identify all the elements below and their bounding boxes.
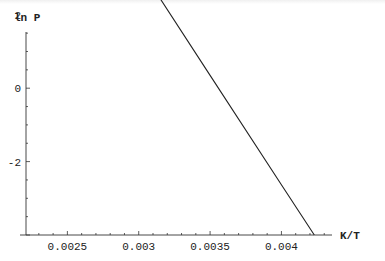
y-axis-title: ln P: [14, 12, 41, 24]
x-axis-title: K/T: [340, 230, 360, 242]
y-axis: -20246: [8, 0, 30, 235]
x-tick-label: 0.004: [265, 241, 298, 253]
x-tick-label: 0.003: [122, 241, 155, 253]
x-tick-label: 0.0025: [48, 241, 88, 253]
series-line: [63, 0, 314, 235]
clausius-clapeyron-plot: -20246 0.00250.0030.00350.004 ln P K/T: [0, 0, 385, 261]
data-series: [63, 0, 314, 235]
x-tick-label: 0.0035: [190, 241, 230, 253]
x-axis: 0.00250.0030.00350.004: [20, 231, 332, 253]
y-tick-label: -2: [8, 157, 21, 169]
y-tick-label: 0: [14, 83, 21, 95]
